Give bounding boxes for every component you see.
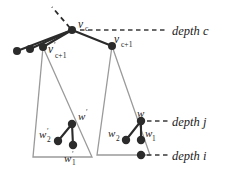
label-wprime-mark: ′ (86, 108, 88, 117)
node-w-1 (137, 136, 145, 144)
label-w: w (137, 107, 145, 119)
label-v-c-base: v (78, 18, 84, 30)
label-w-base: w (137, 107, 145, 119)
label-w-prime: w ′ (78, 108, 88, 122)
label-v-c-plus-1: v c+1 (114, 33, 133, 49)
node-v-c (68, 26, 76, 34)
label-w2-subscript: 2 (116, 134, 120, 143)
label-wprime2-subscript: 2 (47, 135, 51, 144)
label-vprime-mark: ′ (54, 41, 56, 50)
node-w-prime-2 (54, 137, 62, 145)
label-vprime-subscript: c+1 (55, 51, 67, 60)
edge-vc-to-vcplus1 (72, 30, 112, 46)
left-subtree-triangle (33, 47, 92, 157)
node-sibling-left-1 (13, 47, 21, 55)
label-w1-subscript: 1 (152, 134, 156, 143)
figure-canvas: v c v ′ c+1 v c+1 w ′ w w ′ 2 w ′ 1 (0, 0, 239, 169)
label-wprime1-base: w (64, 152, 72, 164)
node-w-prime (68, 120, 76, 128)
label-wprime2-base: w (39, 128, 47, 140)
depth-i-label: depth i (172, 149, 207, 163)
label-wprime1-subscript: 1 (72, 158, 76, 167)
depth-c-label: depth c (172, 24, 209, 38)
label-vcplus1-subscript: c+1 (121, 40, 133, 49)
label-vcplus1-base: v (114, 33, 120, 45)
label-v-c-subscript: c (85, 24, 89, 33)
label-v-prime-c-plus-1: v ′ c+1 (48, 41, 67, 60)
label-w-2: w 2 (108, 127, 120, 143)
node-depth-i (137, 151, 145, 159)
label-w-prime-2: w ′ 2 (39, 127, 51, 144)
node-w-prime-1 (69, 141, 77, 149)
label-wprime-base: w (78, 110, 86, 122)
label-w-prime-1: w ′ 1 (64, 150, 76, 167)
node-sibling-left-2 (26, 45, 34, 53)
parent-edge-dashed (52, 7, 70, 28)
tree-depth-figure: v c v ′ c+1 v c+1 w ′ w w ′ 2 w ′ 1 (0, 0, 239, 169)
label-w-1: w 1 (145, 127, 156, 143)
node-w-2 (122, 136, 130, 144)
node-v-prime-c-plus-1 (39, 43, 47, 51)
label-w2-base: w (108, 127, 116, 139)
depth-j-label: depth j (172, 115, 207, 129)
